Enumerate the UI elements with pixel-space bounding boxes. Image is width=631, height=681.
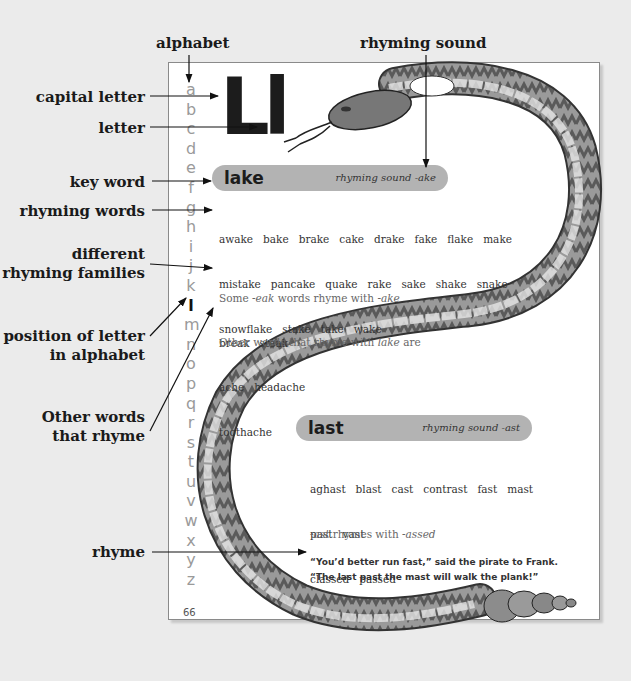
callout-arrows [0, 0, 631, 681]
arrow-position [150, 298, 186, 336]
arrow-different-families [150, 264, 212, 268]
